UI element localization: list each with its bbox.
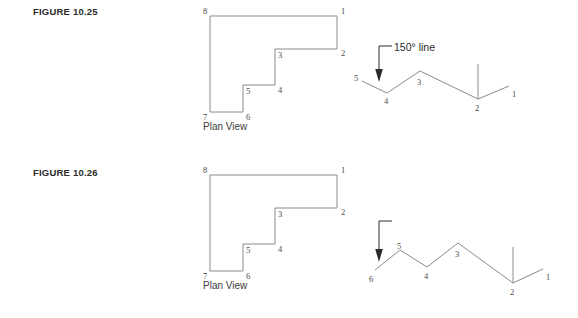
plan-vertex-label-5: 5 (246, 245, 250, 255)
plan-vertex-label-5: 5 (246, 86, 250, 96)
figure-1025-diagram: 1 2 3 4 5 6 7 8 (0, 0, 578, 159)
annotation-arrow (375, 221, 392, 262)
plan-vertex-labels: 1 2 3 4 5 6 7 8 (203, 165, 345, 281)
traverse-vertex-label-4: 4 (384, 96, 389, 106)
plan-vertex-label-8: 8 (203, 165, 207, 175)
plan-view-caption: Plan View (203, 280, 247, 291)
plan-view-polygon (210, 175, 337, 271)
traverse-vertex-label-1: 1 (512, 89, 516, 99)
plan-vertex-label-2: 2 (341, 48, 345, 58)
plan-vertex-label-4: 4 (278, 85, 283, 95)
traverse-vertex-labels: 1 2 3 4 5 6 (369, 241, 550, 297)
traverse-vertex-label-5: 5 (397, 241, 401, 251)
traverse-vertex-label-2: 2 (510, 287, 514, 297)
plan-view-polygon (210, 16, 337, 112)
plan-vertex-label-3: 3 (278, 209, 282, 219)
plan-vertex-label-1: 1 (341, 6, 345, 16)
figure-page: FIGURE 10.25 1 2 3 4 5 6 7 8 (0, 0, 578, 318)
plan-vertex-labels: 1 2 3 4 5 6 7 8 (203, 6, 345, 122)
figure-block-1025: FIGURE 10.25 1 2 3 4 5 6 7 8 (0, 0, 578, 159)
traverse-vertex-label-2: 2 (475, 103, 479, 113)
plan-view-caption: Plan View (203, 121, 247, 132)
traverse-annotation-label: 150° line (394, 41, 435, 53)
plan-vertex-label-1: 1 (341, 165, 345, 175)
traverse-vertex-label-5: 5 (354, 73, 358, 83)
traverse-vertex-label-4: 4 (424, 271, 429, 281)
annotation-arrow (375, 46, 392, 82)
traverse-vertex-label-1: 1 (546, 272, 550, 282)
traverse-vertex-label-3: 3 (455, 249, 459, 259)
figure-1026-diagram: 1 2 3 4 5 6 7 8 (0, 159, 578, 318)
plan-vertex-label-4: 4 (278, 244, 283, 254)
plan-vertex-label-8: 8 (203, 6, 207, 16)
figure-block-1026: FIGURE 10.26 1 2 3 4 5 6 7 8 (0, 159, 578, 318)
plan-vertex-label-2: 2 (341, 207, 345, 217)
traverse-diagram (362, 46, 509, 99)
traverse-vertex-label-3: 3 (417, 77, 421, 87)
traverse-vertex-label-6: 6 (369, 274, 373, 284)
plan-vertex-label-3: 3 (278, 50, 282, 60)
